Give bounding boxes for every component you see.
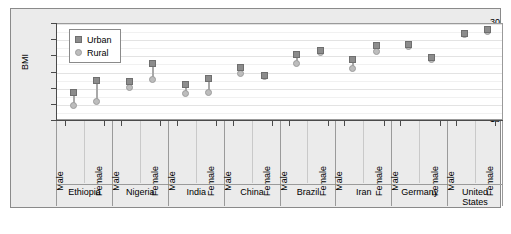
gridline [57,89,502,90]
gridline-minor [57,64,502,65]
x-sex-cell: Female [84,121,112,183]
x-sex-cell: Male [281,121,308,183]
gridline-minor [57,113,502,114]
x-country-group: MaleFemaleChina [224,121,280,206]
gridline [57,105,502,106]
urban-marker [349,56,356,63]
urban-marker [93,77,100,84]
x-country-label: Brazil [281,184,336,197]
rural-swatch-icon [75,49,82,56]
rural-marker [205,89,212,96]
urban-marker [237,64,244,71]
gridline-minor [57,48,502,49]
x-sex-cell: Female [252,121,280,183]
urban-marker [484,26,491,33]
urban-marker [405,41,412,48]
rural-marker [349,65,356,72]
x-country-label: India [169,184,224,197]
x-tick-mark [177,121,178,126]
x-sex-cell: Male [57,121,84,183]
gridline [57,40,502,41]
x-tick-mark [440,121,441,126]
x-sex-cell: Female [419,121,447,183]
x-country-group: MaleFemaleGermany [391,121,447,206]
x-tick-mark [160,121,161,126]
rural-marker [373,48,380,55]
legend-label-urban: Urban [87,35,112,45]
x-tick-mark [384,121,385,126]
x-tick-mark [495,121,496,126]
chart-figure: BMI 18202224262830 Urban Rural MaleFemal… [0,0,511,234]
x-country-label: Germany [392,184,447,197]
urban-marker [70,89,77,96]
x-country-group: MaleFemaleUnited States [447,121,503,206]
gridline [57,73,502,74]
x-sex-cell: Female [307,121,335,183]
x-sex-cell: Female [140,121,168,183]
urban-marker [317,47,324,54]
urban-marker [293,51,300,58]
x-sex-cell: Female [196,121,224,183]
x-tick-mark [216,121,217,126]
x-tick-mark [233,121,234,126]
x-country-label: China [225,184,280,197]
x-axis: MaleFemaleEthiopiaMaleFemaleNigeriaMaleF… [56,121,503,206]
rural-marker [293,60,300,67]
legend-label-rural: Rural [87,48,109,58]
urban-marker [428,54,435,61]
x-tick-mark [344,121,345,126]
x-country-group: MaleFemaleIndia [168,121,224,206]
rural-marker [149,76,156,83]
x-country-label: Iran [336,184,391,197]
rural-marker [93,98,100,105]
gridline-minor [57,81,502,82]
legend-item-urban: Urban [75,33,112,46]
urban-swatch-icon [75,36,82,43]
urban-marker [261,72,268,79]
x-sex-cell: Female [363,121,391,183]
x-tick-mark [121,121,122,126]
x-sex-cell: Male [113,121,140,183]
x-sex-cell: Male [225,121,252,183]
x-tick-mark [456,121,457,126]
urban-marker [461,30,468,37]
x-sex-cell: Female [475,121,502,183]
x-country-group: MaleFemaleIran [335,121,391,206]
rural-marker [70,102,77,109]
x-tick-mark [272,121,273,126]
rural-marker [182,90,189,97]
x-country-group: MaleFemaleBrazil [280,121,336,206]
x-country-group: MaleFemaleEthiopia [56,121,112,206]
gridline [57,24,502,25]
x-country-label: Ethiopia [57,184,112,197]
plot-area [56,23,503,120]
urban-marker [205,75,212,82]
x-sex-cell: Male [336,121,363,183]
chart-legend: Urban Rural [69,29,121,63]
chart-panel: BMI 18202224262830 Urban Rural MaleFemal… [10,8,501,208]
x-sex-cell: Male [448,121,474,183]
urban-marker [373,42,380,49]
y-axis-line [56,23,57,120]
urban-marker [126,78,133,85]
x-country-label: Nigeria [113,184,168,197]
x-country-group: MaleFemaleNigeria [112,121,168,206]
y-axis-title: BMI [20,42,30,82]
gridline-minor [57,97,502,98]
x-tick-mark [328,121,329,126]
x-sex-cell: Male [169,121,196,183]
gridline-minor [57,32,502,33]
x-tick-mark [65,121,66,126]
urban-marker [149,60,156,67]
x-tick-mark [104,121,105,126]
urban-marker [182,81,189,88]
x-tick-mark [289,121,290,126]
rural-marker [237,70,244,77]
x-sex-cell: Male [392,121,419,183]
x-tick-mark [400,121,401,126]
x-country-label: United States [448,184,502,207]
legend-item-rural: Rural [75,46,112,59]
